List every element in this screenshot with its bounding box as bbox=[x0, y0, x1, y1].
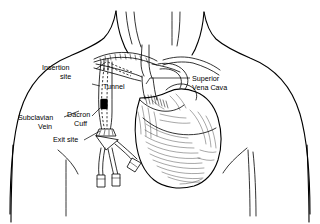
label-insertion-site-line2: site bbox=[60, 72, 71, 81]
label-superior-vena-cava-line2: Vena Cava bbox=[192, 83, 227, 92]
coronary-sulcus bbox=[143, 118, 216, 135]
dacron-cuff bbox=[101, 99, 108, 109]
svc-left-wall bbox=[142, 76, 145, 99]
label-exit-site: Exit site bbox=[53, 135, 78, 144]
label-subclavian-vein-line2: Vein bbox=[38, 122, 52, 131]
clavicle-group bbox=[94, 52, 220, 75]
catheter-device bbox=[96, 59, 141, 187]
subclavian-vein-lower bbox=[94, 68, 141, 81]
clamp-2 bbox=[112, 174, 120, 186]
body-outline bbox=[10, 11, 310, 222]
clavicle-hatch-10 bbox=[146, 58, 148, 63]
heart bbox=[135, 84, 221, 188]
label-dacron-cuff-line1: Dacron bbox=[67, 110, 90, 119]
shoulder-right-contour bbox=[204, 12, 310, 214]
aortic-arch-inner bbox=[160, 69, 181, 88]
label-superior-vena-cava-line1: Superior bbox=[192, 74, 220, 83]
lumen-tail-1 bbox=[99, 148, 101, 176]
clavicle-hatch-8 bbox=[135, 55, 136, 60]
breast-fold-right bbox=[223, 148, 247, 173]
neck-fold-left bbox=[126, 12, 132, 44]
clavicle-hatch-7 bbox=[130, 54, 131, 59]
clavicle-hatch-5 bbox=[120, 54, 121, 59]
label-insertion-site-line1: Insertion bbox=[42, 63, 70, 72]
label-subclavian-vein-line1: Subclavian bbox=[18, 113, 53, 122]
label-text-group: Insertion site Tunnel Subclavian Vein Da… bbox=[18, 63, 227, 144]
heart-outline bbox=[135, 89, 221, 188]
lumen-tail-1b bbox=[103, 148, 105, 176]
neck-right-contour bbox=[192, 12, 204, 55]
nipple-line-right-2 bbox=[253, 152, 256, 216]
medical-illustration: Insertion site Tunnel Subclavian Vein Da… bbox=[0, 0, 320, 224]
nipple-line-right bbox=[248, 150, 250, 216]
neck-fold-right bbox=[177, 12, 180, 46]
lumen-tail-3b bbox=[117, 141, 137, 159]
exit-skin-flap bbox=[96, 136, 118, 150]
label-dacron-cuff-line2: Cuff bbox=[74, 119, 87, 128]
jugular-vein-right-2 bbox=[149, 45, 152, 78]
clavicle-hatch-6 bbox=[125, 54, 126, 59]
leader-svc-tick bbox=[146, 78, 150, 84]
diagram-canvas: Insertion site Tunnel Subclavian Vein Da… bbox=[0, 0, 320, 224]
leader-lines bbox=[64, 62, 190, 140]
label-tunnel: Tunnel bbox=[103, 82, 125, 91]
clamp-1 bbox=[97, 175, 105, 187]
breast-fold-left bbox=[58, 150, 78, 174]
neck-fold-left-2 bbox=[134, 12, 141, 47]
